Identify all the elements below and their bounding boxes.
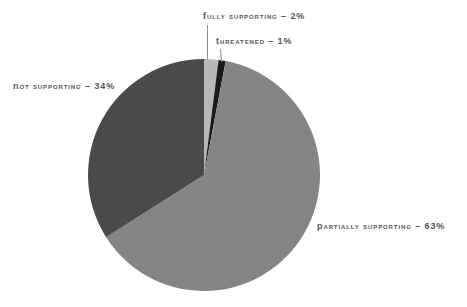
pie-chart-figure: Fully Supporting – 2% Threatened – 1% No…	[0, 0, 467, 307]
pie-label-not-supporting: Not Supporting – 34%	[13, 81, 115, 92]
pie-label-partially-supporting: Partially Supporting – 63%	[317, 221, 445, 232]
pie-label-threatened: Threatened – 1%	[216, 36, 292, 47]
pie-label-fully-supporting: Fully Supporting – 2%	[203, 11, 305, 22]
leader-line-threatened	[221, 49, 222, 62]
